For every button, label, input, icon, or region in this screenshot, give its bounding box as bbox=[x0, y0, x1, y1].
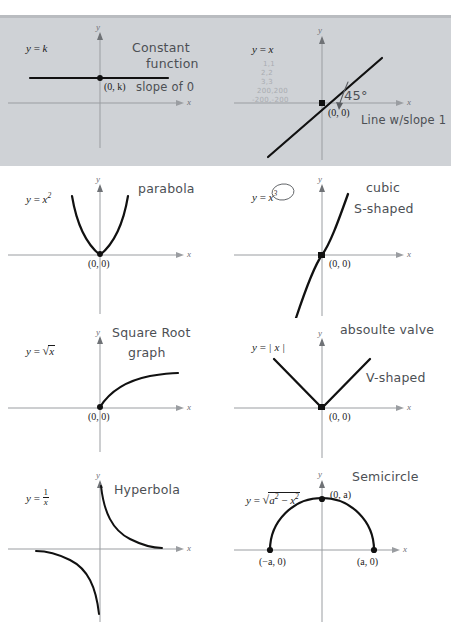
y-axis-letter: y bbox=[96, 327, 100, 337]
equation-label-constant: y = k bbox=[26, 43, 48, 54]
point-label-origin: (0, 0) bbox=[329, 412, 351, 422]
annotation-line-slope-1: Line w/slope 1 bbox=[361, 114, 446, 128]
annotation-hyperbola: Hyperbola bbox=[114, 483, 180, 498]
x-axis-letter: x bbox=[187, 249, 191, 259]
panel-parabola: x y y = x2 (0, 0) parabola bbox=[0, 168, 225, 318]
equation-label-absolute-value: y = | x | bbox=[252, 342, 285, 353]
equation-label-cubic: y = x3 bbox=[252, 190, 277, 203]
x-axis-letter: x bbox=[187, 402, 191, 412]
x-axis-letter: x bbox=[407, 97, 411, 107]
worksheet-sheet: x y y = k (0, k) Constant function slope… bbox=[0, 0, 451, 638]
scratch-note-4: 200,200 bbox=[257, 87, 288, 95]
x-axis-letter: x bbox=[187, 543, 191, 553]
x-axis-letter: x bbox=[407, 249, 411, 259]
point-label-top: (0, a) bbox=[330, 490, 351, 500]
panel-identity-line: x y y = x 1,1 2,2 3,3 200,200 -200,-200 … bbox=[226, 20, 451, 168]
y-axis-letter: y bbox=[318, 174, 322, 184]
panel-square-root: x y y = √x (0, 0) Square Root graph bbox=[0, 318, 225, 466]
equation-label-parabola: y = x2 bbox=[26, 192, 51, 205]
annotation-cubic: cubic bbox=[366, 181, 400, 196]
scratch-note-1: 1,1 bbox=[263, 60, 275, 68]
annotation-slope-of-0: slope of 0 bbox=[136, 81, 194, 95]
annotation-constant: Constant bbox=[132, 41, 190, 56]
point-label-origin: (0, 0) bbox=[88, 412, 110, 422]
y-axis-letter: y bbox=[96, 22, 100, 32]
x-axis-letter: x bbox=[187, 97, 191, 107]
scratch-note-5: -200,-200 bbox=[252, 96, 289, 104]
annotation-graph: graph bbox=[128, 346, 166, 361]
equation-label-hyperbola: y = 1x bbox=[26, 488, 49, 507]
y-axis-letter: y bbox=[96, 174, 100, 184]
annotation-function: function bbox=[146, 57, 199, 72]
panel-semicircle: x y y = √a2 − x2 (0, a) (−a, 0) (a, 0) S… bbox=[226, 466, 451, 638]
annotation-s-shaped: S-shaped bbox=[354, 202, 414, 217]
point-label-origin: (0, 0) bbox=[328, 108, 350, 118]
annotation-parabola: parabola bbox=[138, 182, 195, 197]
equation-label-semicircle: y = √a2 − x2 bbox=[246, 492, 300, 506]
y-axis-letter: y bbox=[318, 469, 322, 479]
point-label-origin: (0, 0) bbox=[88, 259, 110, 269]
annotation-square-root: Square Root bbox=[112, 326, 191, 341]
panel-constant-function: x y y = k (0, k) Constant function slope… bbox=[0, 20, 225, 168]
scratch-note-3: 3,3 bbox=[261, 78, 273, 86]
panel-hyperbola: x y y = 1x Hyperbola bbox=[0, 466, 225, 638]
annotation-semicircle: Semicircle bbox=[352, 470, 419, 485]
annotation-v-shaped: V-shaped bbox=[366, 371, 426, 386]
panel-cubic: x y y = x3 (0, 0) cubic S-shaped bbox=[226, 168, 451, 318]
x-axis-letter: x bbox=[407, 402, 411, 412]
equation-label-square-root: y = √x bbox=[26, 345, 55, 357]
point-label-origin: (0, 0) bbox=[329, 259, 351, 269]
y-axis-letter: y bbox=[318, 25, 322, 35]
y-axis-letter: y bbox=[318, 328, 322, 338]
annotation-45-degrees: 45° bbox=[344, 88, 368, 103]
panel-absolute-value: x y y = | x | (0, 0) absoulte valve V-sh… bbox=[226, 318, 451, 466]
equation-label-identity: y = x bbox=[252, 44, 274, 55]
y-axis-letter: y bbox=[96, 470, 100, 480]
annotation-absolute-value: absoulte valve bbox=[340, 323, 434, 338]
point-label-left: (−a, 0) bbox=[259, 557, 286, 567]
point-label-right: (a, 0) bbox=[357, 557, 378, 567]
x-axis-letter: x bbox=[403, 544, 407, 554]
point-label-0k: (0, k) bbox=[104, 82, 126, 92]
scratch-note-2: 2,2 bbox=[261, 69, 273, 77]
